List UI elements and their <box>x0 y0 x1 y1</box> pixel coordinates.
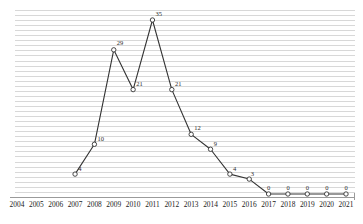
x-tick-label-2016: 2016 <box>242 201 257 208</box>
data-point-marker <box>131 87 135 91</box>
data-label-2016: 3 <box>251 171 254 178</box>
x-tick-label-2011: 2011 <box>145 201 160 208</box>
data-label-2021: 0 <box>345 185 348 192</box>
data-point-marker <box>266 192 270 196</box>
x-tick-label-2020: 2020 <box>319 201 334 208</box>
data-label-2017: 0 <box>267 185 270 192</box>
data-label-2018: 0 <box>286 185 289 192</box>
data-label-2019: 0 <box>306 185 309 192</box>
data-point-marker <box>228 172 232 176</box>
x-tick-label-2004: 2004 <box>10 201 25 208</box>
x-tick-label-2012: 2012 <box>164 201 179 208</box>
data-point-marker <box>286 192 290 196</box>
data-label-2011: 35 <box>155 11 162 18</box>
series-polyline <box>75 20 346 194</box>
data-label-2020: 0 <box>325 185 328 192</box>
x-axis-tick-labels: 2004200520062007200820092010201120122013… <box>0 201 363 215</box>
data-label-2008: 10 <box>98 136 105 143</box>
data-label-2015: 4 <box>233 166 236 173</box>
data-point-marker <box>247 177 251 181</box>
line-chart: 4 10 29 21 35 21 12 9 4 3 0 0 0 0 0 2004… <box>0 0 363 224</box>
data-label-2007: 4 <box>78 166 81 173</box>
x-tick-label-2017: 2017 <box>261 201 276 208</box>
x-tick-label-2008: 2008 <box>87 201 102 208</box>
data-point-marker <box>344 192 348 196</box>
data-point-marker <box>150 18 154 22</box>
data-point-marker <box>324 192 328 196</box>
data-label-2014: 9 <box>214 141 217 148</box>
data-point-marker <box>112 48 116 52</box>
x-tick-label-2019: 2019 <box>300 201 315 208</box>
data-point-marker <box>305 192 309 196</box>
x-tick-label-2009: 2009 <box>106 201 121 208</box>
x-tick-label-2006: 2006 <box>48 201 63 208</box>
x-tick-label-2007: 2007 <box>68 201 83 208</box>
x-tick-label-2014: 2014 <box>203 201 218 208</box>
data-point-marker <box>170 87 174 91</box>
data-label-2010: 21 <box>136 81 143 88</box>
data-point-marker <box>189 132 193 136</box>
x-tick-label-2005: 2005 <box>29 201 44 208</box>
data-point-marker <box>208 147 212 151</box>
data-label-2013: 12 <box>194 125 201 132</box>
data-point-marker <box>73 172 77 176</box>
x-tick-label-2018: 2018 <box>281 201 296 208</box>
x-tick-label-2013: 2013 <box>184 201 199 208</box>
data-label-2012: 21 <box>175 81 182 88</box>
data-label-2009: 29 <box>117 40 124 47</box>
data-point-marker <box>92 142 96 146</box>
x-tick-label-2015: 2015 <box>222 201 237 208</box>
x-tick-label-2021: 2021 <box>339 201 354 208</box>
x-tick-label-2010: 2010 <box>126 201 141 208</box>
